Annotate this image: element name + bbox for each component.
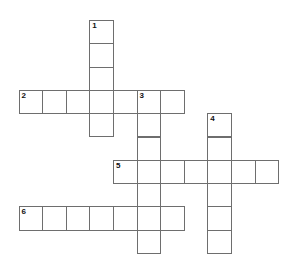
crossword-cell[interactable]: 1 (89, 20, 114, 44)
crossword-cell[interactable] (137, 230, 162, 254)
clue-number: 6 (22, 208, 26, 216)
crossword-cell[interactable] (89, 206, 114, 230)
crossword-cell[interactable] (160, 206, 185, 230)
crossword-cell[interactable] (184, 160, 209, 184)
crossword-cell[interactable] (231, 160, 256, 184)
crossword-cell[interactable] (137, 160, 162, 184)
crossword-cell[interactable] (207, 206, 232, 230)
crossword-cell[interactable] (66, 206, 91, 230)
crossword-cell[interactable] (207, 230, 232, 254)
clue-number: 5 (116, 162, 120, 170)
crossword-cell[interactable] (207, 160, 232, 184)
clue-number: 1 (92, 22, 96, 30)
crossword-cell[interactable] (113, 90, 138, 114)
crossword-cell[interactable]: 4 (207, 113, 232, 137)
crossword-cell[interactable] (89, 113, 114, 137)
clue-number: 4 (210, 115, 214, 123)
crossword-cell[interactable] (89, 67, 114, 91)
crossword-cell[interactable] (207, 183, 232, 207)
crossword-cell[interactable] (160, 160, 185, 184)
crossword-cell[interactable] (89, 90, 114, 114)
crossword-cell[interactable] (207, 137, 232, 161)
clue-number: 2 (22, 92, 26, 100)
crossword-cell[interactable] (42, 206, 67, 230)
crossword-cell[interactable] (137, 113, 162, 137)
crossword-cell[interactable] (137, 206, 162, 230)
crossword-cell[interactable] (66, 90, 91, 114)
crossword-grid: 123456 (0, 0, 295, 265)
crossword-cell[interactable] (255, 160, 280, 184)
crossword-cell[interactable] (89, 43, 114, 67)
crossword-cell[interactable] (160, 90, 185, 114)
crossword-cell[interactable] (137, 137, 162, 161)
crossword-cell[interactable] (42, 90, 67, 114)
crossword-cell[interactable]: 2 (19, 90, 44, 114)
crossword-cell[interactable] (137, 183, 162, 207)
crossword-cell[interactable]: 6 (19, 206, 44, 230)
crossword-cell[interactable] (113, 206, 138, 230)
crossword-cell[interactable]: 3 (137, 90, 162, 114)
clue-number: 3 (140, 92, 144, 100)
crossword-cell[interactable]: 5 (113, 160, 138, 184)
